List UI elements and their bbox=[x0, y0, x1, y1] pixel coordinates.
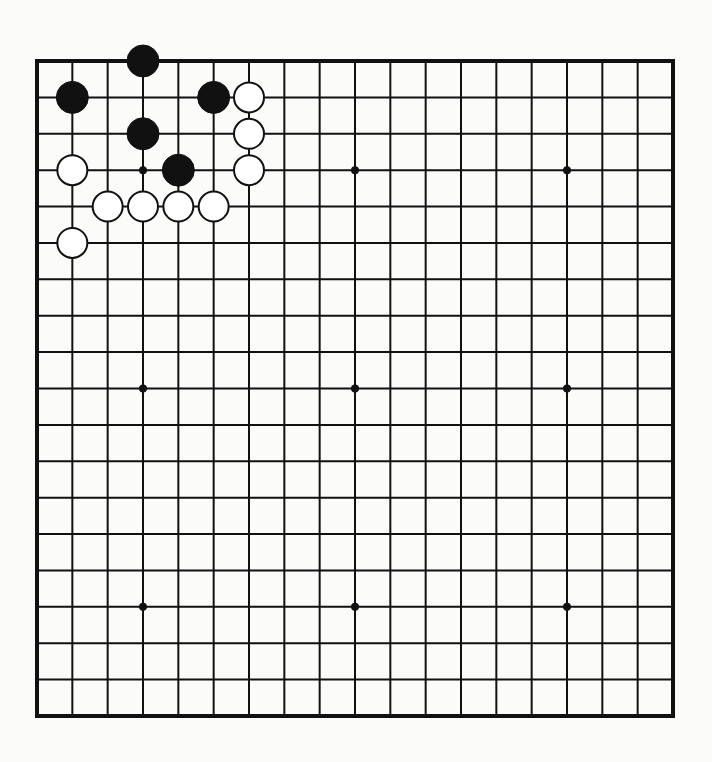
black-stone bbox=[127, 118, 159, 150]
star-point bbox=[139, 603, 147, 611]
white-stone bbox=[234, 119, 264, 149]
star-point bbox=[351, 385, 359, 393]
white-stone bbox=[199, 192, 229, 222]
black-stone bbox=[56, 81, 88, 113]
black-stone bbox=[127, 45, 159, 77]
white-stone bbox=[57, 228, 87, 258]
star-point bbox=[563, 166, 571, 174]
black-stone bbox=[162, 154, 194, 186]
star-point bbox=[563, 385, 571, 393]
white-stone bbox=[163, 192, 193, 222]
white-stone bbox=[93, 192, 123, 222]
star-point bbox=[351, 603, 359, 611]
white-stone bbox=[234, 82, 264, 112]
black-stone bbox=[198, 81, 230, 113]
star-point bbox=[139, 166, 147, 174]
white-stone bbox=[57, 155, 87, 185]
go-board bbox=[0, 0, 712, 762]
white-stone bbox=[234, 155, 264, 185]
star-point bbox=[563, 603, 571, 611]
stones-layer bbox=[56, 45, 264, 258]
white-stone bbox=[128, 192, 158, 222]
star-point bbox=[351, 166, 359, 174]
star-point bbox=[139, 385, 147, 393]
